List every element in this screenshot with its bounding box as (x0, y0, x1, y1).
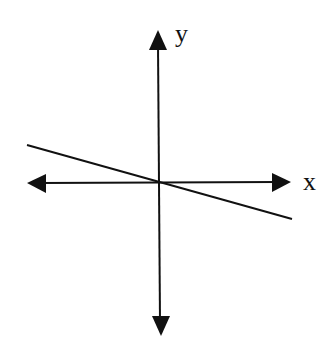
y-axis (158, 45, 160, 322)
x-axis-left-arrow-icon (27, 174, 46, 193)
y-axis-label: y (175, 19, 188, 48)
y-axis-down-arrow-icon (152, 316, 170, 336)
y-axis-up-arrow-icon (149, 30, 167, 50)
x-axis-right-arrow-icon (272, 173, 291, 192)
x-axis-label: x (303, 167, 316, 196)
coordinate-diagram: y x (0, 0, 330, 354)
